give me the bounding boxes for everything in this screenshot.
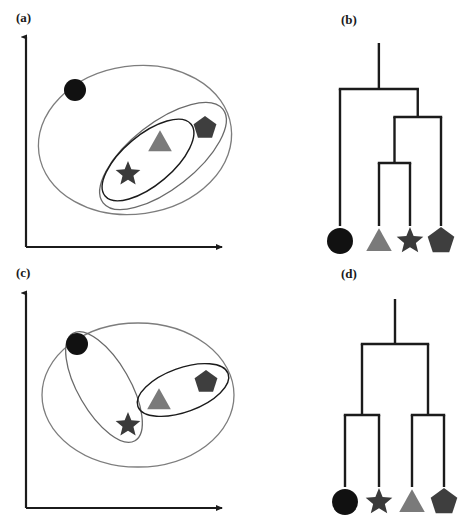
triangle-marker bbox=[147, 388, 171, 409]
triangle-marker bbox=[148, 130, 172, 151]
cluster-circle-star bbox=[50, 320, 157, 453]
star-marker bbox=[116, 161, 141, 185]
panel-d bbox=[332, 299, 457, 515]
circle-marker bbox=[332, 489, 358, 515]
triangle-marker bbox=[399, 489, 424, 512]
circle-marker bbox=[327, 228, 353, 254]
outer-ellipse bbox=[29, 53, 242, 227]
pentagon-marker bbox=[428, 227, 455, 252]
panel-b-dendrogram-lines bbox=[339, 43, 442, 226]
circle-marker bbox=[66, 333, 88, 355]
star-marker bbox=[366, 488, 393, 513]
mid-ellipse bbox=[83, 83, 243, 229]
triangle-marker bbox=[366, 228, 391, 251]
cluster-triangle-pentagon bbox=[130, 353, 235, 427]
panel-b bbox=[327, 43, 454, 254]
pentagon-marker bbox=[431, 488, 458, 513]
panel-c-axes bbox=[26, 293, 222, 508]
pentagon-marker bbox=[195, 370, 218, 392]
panel-a bbox=[26, 37, 243, 247]
panel-d-leaf-markers bbox=[332, 488, 457, 515]
panel-label-a: (a) bbox=[16, 10, 31, 26]
panel-d-dendrogram-lines bbox=[344, 299, 445, 487]
figure-svg bbox=[0, 0, 468, 523]
panel-label-d: (d) bbox=[341, 266, 357, 282]
circle-marker bbox=[64, 79, 86, 101]
star-marker bbox=[397, 227, 424, 252]
panel-b-leaf-markers bbox=[327, 227, 454, 254]
panel-label-b: (b) bbox=[341, 12, 357, 28]
figure-canvas: (a) (b) (c) (d) bbox=[0, 0, 468, 523]
panel-c bbox=[26, 293, 236, 508]
panel-a-cluster-ellipses bbox=[29, 53, 244, 229]
panel-label-c: (c) bbox=[16, 265, 30, 281]
pentagon-marker bbox=[194, 116, 217, 138]
star-marker bbox=[116, 412, 141, 436]
